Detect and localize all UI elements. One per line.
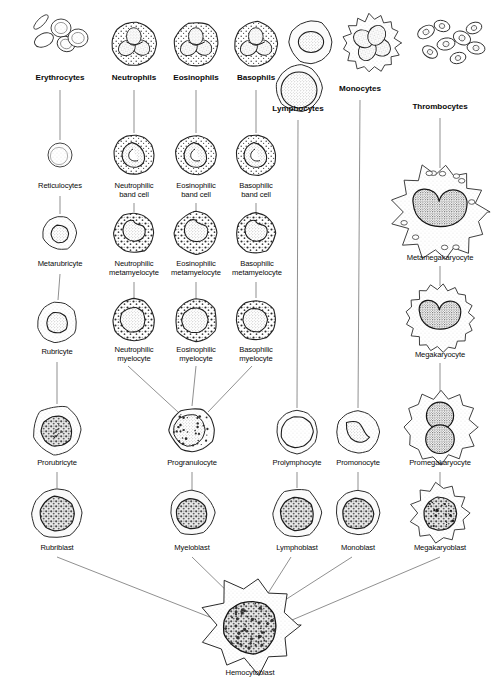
label-eosinophils: Eosinophils <box>173 73 218 82</box>
cell-thrombocyte-cluster <box>415 19 486 66</box>
label-hemocytoblast: Hemocytoblast <box>226 668 275 677</box>
label-thrombocytes: Thrombocytes <box>412 102 467 111</box>
cell-basophil-band <box>236 135 275 175</box>
connector-c-metarub-rub <box>58 274 60 300</box>
cell-metarubricyte-cell <box>43 217 77 250</box>
cell-monoblast-cell <box>336 490 379 534</box>
label-neutrophilic-band-cell: Neutrophilic band cell <box>115 181 154 199</box>
cell-neutrophil-metamyelocyte <box>114 213 154 252</box>
label-rubriblast: Rubriblast <box>40 543 73 552</box>
cell-myeloblast-cell <box>171 490 215 534</box>
cell-lymphocyte-small <box>289 21 332 64</box>
label-lymphocytes: Lymphocytes <box>272 104 323 113</box>
cell-basophil-mature <box>235 21 278 66</box>
label-basophilic-band-cell: Basophilic band cell <box>239 181 273 199</box>
cell-rubriblast-cell <box>32 489 82 537</box>
connector-c-lymph-pro <box>297 120 298 408</box>
hematopoiesis-diagram: ErythrocytesNeutrophilsEosinophilsBasoph… <box>0 0 503 697</box>
label-myeloblast: Myeloblast <box>174 543 209 552</box>
cell-neutrophil-band <box>114 135 154 174</box>
cell-hemocytoblast-cell <box>202 579 301 676</box>
connector-c-megbl-hemo <box>292 557 440 620</box>
cell-metamegakaryocyte-cell <box>392 165 491 259</box>
cell-basophil-metamyelocyte <box>237 213 276 253</box>
cell-eosinophil-myelocyte <box>176 299 216 342</box>
connector-c-rubbl-hemo <box>57 557 212 618</box>
connector-lines <box>57 90 440 666</box>
label-monoblast: Monoblast <box>341 543 375 552</box>
cell-eosinophil-band <box>176 136 217 175</box>
cell-eosinophil-mature <box>174 23 218 66</box>
label-prorubricyte: Prorubricyte <box>37 458 77 467</box>
connector-c-mono-pro <box>358 100 360 408</box>
label-basophils: Basophils <box>237 73 275 82</box>
label-megakaryocyte: Megakaryocyte <box>415 350 465 359</box>
connector-c-monobl-hemo <box>285 557 352 600</box>
label-basophilic-metamyelocyte: Basophilic metamyelocyte <box>232 259 282 277</box>
cell-promegakaryocyte-cell <box>404 390 478 465</box>
label-eosinophilic-metamyelocyte: Eosinophilic metamyelocyte <box>171 259 221 277</box>
connector-c-neumyelo-prog <box>128 366 178 412</box>
connector-c-lymphbl-hemo <box>265 557 291 598</box>
label-rubricyte: Rubricyte <box>41 347 72 356</box>
connector-c-eosmyelo-prog <box>192 366 196 406</box>
label-eosinophilic-myelocyte: Eosinophilic myelocyte <box>176 345 215 363</box>
label-erythrocytes: Erythrocytes <box>36 73 85 82</box>
cell-prorubricyte-cell <box>34 406 81 455</box>
label-promegakaryocyte: Promegakaryocyte <box>409 458 471 467</box>
label-promonocyte: Promonocyte <box>336 458 380 467</box>
label-eosinophilic-band-cell: Eosinophilic band cell <box>176 181 215 199</box>
label-monocytes: Monocytes <box>339 84 381 93</box>
cell-erythrocytes-cluster <box>32 15 89 54</box>
label-reticulocytes: Reticulocytes <box>38 181 82 190</box>
cell-promonocyte-cell <box>337 411 380 453</box>
cell-megakaryocyte-cell <box>406 284 475 353</box>
cell-eosinophil-metamyelocyte <box>174 211 217 254</box>
connector-c-basmyelo-prog <box>208 366 252 412</box>
cell-monocyte-mature <box>343 13 402 72</box>
label-prolymphocyte: Prolymphocyte <box>273 458 322 467</box>
connector-c-myelobl-hemo <box>192 557 236 600</box>
cell-megakaryoblast-cell <box>410 482 470 543</box>
label-neutrophilic-metamyelocyte: Neutrophilic metamyelocyte <box>109 259 159 277</box>
cell-reticulocyte <box>48 143 72 167</box>
label-metamegakaryocyte: Metamegakaryocyte <box>407 253 474 262</box>
label-neutrophils: Neutrophils <box>112 73 156 82</box>
label-basophilic-myelocyte: Basophilic myelocyte <box>239 345 273 363</box>
cell-neutrophil-myelocyte <box>113 298 154 340</box>
cell-lymphoblast-cell <box>273 490 322 537</box>
label-megakaryoblast: Megakaryoblast <box>414 543 466 552</box>
label-lymphoblast: Lymphoblast <box>276 543 318 552</box>
cell-rubricyte-cell <box>38 302 76 342</box>
label-metarubricyte: Metarubricyte <box>38 259 83 268</box>
cell-prolymphocyte-cell <box>277 410 317 454</box>
cell-progranulocyte-cell <box>169 409 215 452</box>
label-progranulocyte: Progranulocyte <box>167 458 217 467</box>
cell-neutrophil-mature <box>112 22 156 65</box>
label-neutrophilic-myelocyte: Neutrophilic myelocyte <box>115 345 154 363</box>
cell-basophil-myelocyte <box>236 301 275 340</box>
